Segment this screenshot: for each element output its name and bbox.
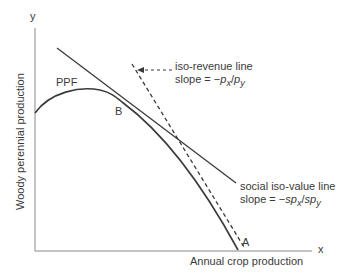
social-iso-value-annotation: social iso-value line slope = −spx/spy [240, 180, 335, 210]
y-axis-label: Woody perennial production [14, 73, 26, 210]
diagram-canvas [0, 0, 346, 279]
iso-revenue-title: iso-revenue line [175, 60, 253, 73]
point-b-label: B [115, 105, 122, 118]
iso-revenue-line [132, 64, 244, 247]
x-axis-label: Annual crop production [190, 255, 303, 268]
iso-revenue-annotation: iso-revenue line slope = −px/py [175, 60, 253, 90]
social-iso-value-slope: slope = −spx/spy [240, 193, 335, 210]
social-iso-value-title: social iso-value line [240, 180, 335, 193]
arrowhead-icon [137, 67, 144, 73]
x-axis-symbol: x [318, 243, 324, 256]
ppf-label: PPF [56, 76, 77, 89]
point-a-label: A [242, 236, 249, 249]
y-axis-symbol: y [30, 10, 36, 23]
iso-revenue-slope: slope = −px/py [175, 73, 253, 90]
ppf-curve [35, 89, 238, 250]
